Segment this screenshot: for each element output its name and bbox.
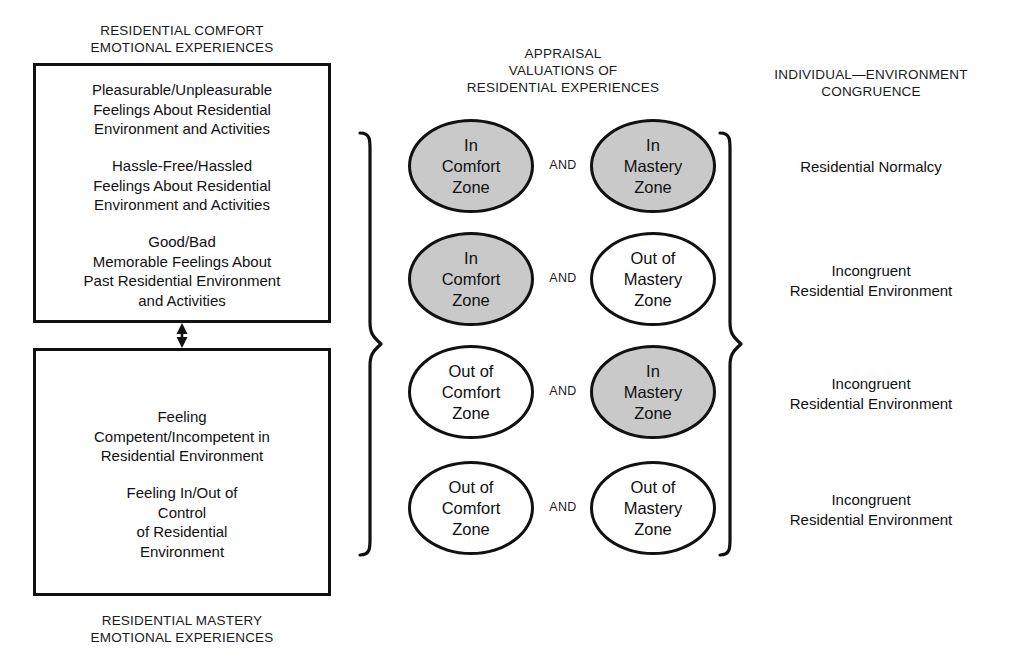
comfort-item-1: Pleasurable/Unpleasurable Feelings About…: [36, 80, 328, 139]
residential-normalcy-diagram: RESIDENTIAL COMFORT EMOTIONAL EXPERIENCE…: [0, 0, 1011, 661]
heading-residential-mastery: RESIDENTIAL MASTERY EMOTIONAL EXPERIENCE…: [33, 612, 331, 646]
comfort-experiences-box: Pleasurable/Unpleasurable Feelings About…: [33, 63, 331, 323]
outcome-row-1: Residential Normalcy: [740, 157, 1002, 177]
and-label-row-1: AND: [536, 158, 590, 172]
comfort-item-3: Good/Bad Memorable Feelings About Past R…: [36, 232, 328, 310]
appraisal-mastery-zone-row-1: In Mastery Zone: [590, 119, 716, 213]
heading-appraisal-valuations: APPRAISAL VALUATIONS OF RESIDENTIAL EXPE…: [410, 45, 716, 96]
mastery-item-1: Feeling Competent/Incompetent in Residen…: [36, 407, 328, 466]
appraisal-comfort-zone-row-2: In Comfort Zone: [408, 232, 534, 326]
appraisal-comfort-zone-row-1: In Comfort Zone: [408, 119, 534, 213]
appraisal-comfort-zone-row-4: Out of Comfort Zone: [408, 461, 534, 555]
and-label-row-4: AND: [536, 500, 590, 514]
left-brace-icon: [360, 133, 381, 555]
appraisal-comfort-zone-row-3: Out of Comfort Zone: [408, 345, 534, 439]
mastery-experiences-box: Feeling Competent/Incompetent in Residen…: [33, 348, 331, 596]
and-label-row-3: AND: [536, 384, 590, 398]
outcome-row-4: Incongruent Residential Environment: [740, 490, 1002, 529]
outcome-row-2: Incongruent Residential Environment: [740, 261, 1002, 300]
right-brace-icon: [720, 133, 741, 555]
mastery-item-2: Feeling In/Out of Control of Residential…: [36, 483, 328, 561]
heading-residential-comfort: RESIDENTIAL COMFORT EMOTIONAL EXPERIENCE…: [33, 22, 331, 56]
outcome-row-3: Incongruent Residential Environment: [740, 374, 1002, 413]
comfort-item-2: Hassle-Free/Hassled Feelings About Resid…: [36, 156, 328, 215]
appraisal-mastery-zone-row-2: Out of Mastery Zone: [590, 232, 716, 326]
and-label-row-2: AND: [536, 271, 590, 285]
bidirectional-arrow-icon: [177, 323, 188, 348]
heading-individual-environment-congruence: INDIVIDUAL—ENVIRONMENT CONGRUENCE: [740, 66, 1002, 100]
appraisal-mastery-zone-row-4: Out of Mastery Zone: [590, 461, 716, 555]
appraisal-mastery-zone-row-3: In Mastery Zone: [590, 345, 716, 439]
